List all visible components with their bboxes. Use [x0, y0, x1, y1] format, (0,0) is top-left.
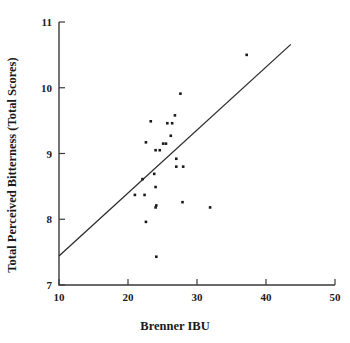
data-point — [174, 114, 177, 117]
y-axis-title: Total Perceived Bitterness (Total Scores… — [5, 57, 19, 272]
x-tick-label: 20 — [123, 291, 135, 303]
data-point — [175, 165, 178, 168]
y-tick-label: 7 — [47, 279, 53, 291]
data-point — [182, 165, 185, 168]
data-point — [209, 206, 212, 209]
data-point — [162, 142, 165, 145]
data-point — [171, 122, 174, 125]
data-point — [175, 157, 178, 160]
data-point — [245, 54, 248, 57]
data-point — [155, 204, 158, 207]
y-tick-label: 8 — [47, 213, 53, 225]
x-tick-label: 40 — [261, 291, 273, 303]
data-point — [153, 173, 156, 176]
x-tick-label: 50 — [330, 291, 342, 303]
data-point — [181, 201, 184, 204]
y-tick-label: 10 — [41, 82, 53, 94]
scatter-plot-figure: 1020304050 7891011 Brenner IBU Total Per… — [0, 0, 350, 343]
data-point — [154, 149, 157, 152]
data-point — [141, 178, 144, 181]
regression-line-segment — [59, 44, 291, 256]
data-point — [169, 134, 172, 137]
data-point — [155, 255, 158, 258]
y-tick-label: 11 — [42, 16, 52, 28]
data-point — [149, 120, 152, 123]
data-point — [154, 186, 157, 189]
x-tick-label: 10 — [54, 291, 66, 303]
x-tick-label: 30 — [192, 291, 204, 303]
plot-canvas: 1020304050 7891011 Brenner IBU Total Per… — [0, 0, 350, 343]
data-point — [145, 141, 148, 144]
data-points — [134, 54, 248, 258]
x-axis-tick-labels: 1020304050 — [54, 291, 342, 303]
regression-line — [59, 44, 291, 256]
axes — [59, 22, 335, 285]
data-point — [143, 194, 146, 197]
data-point — [166, 122, 169, 125]
data-point — [179, 92, 182, 95]
data-point — [165, 142, 168, 145]
tick-marks — [59, 22, 335, 285]
y-tick-label: 9 — [47, 148, 53, 160]
y-axis-tick-labels: 7891011 — [41, 16, 53, 291]
data-point — [145, 221, 148, 224]
data-point — [158, 149, 161, 152]
x-axis-title: Brenner IBU — [140, 319, 209, 333]
data-point — [134, 194, 137, 197]
